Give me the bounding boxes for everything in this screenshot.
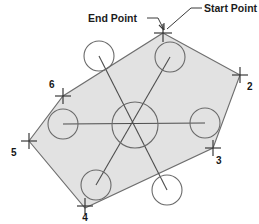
vertex-label-4: 4 (82, 212, 88, 223)
vertex-label-2: 2 (247, 81, 253, 92)
polygon-shape (29, 33, 240, 208)
vertex-label-6: 6 (49, 79, 55, 90)
vertex-label-5: 5 (11, 147, 17, 158)
leader-line-start-point (167, 8, 202, 29)
polygon-point-diagram: End Point Start Point 2 3 4 5 6 (0, 0, 259, 224)
start-point-label: Start Point (204, 2, 258, 14)
end-point-label: End Point (88, 12, 137, 24)
diagram-canvas: End Point Start Point 2 3 4 5 6 (0, 0, 259, 224)
leader-line-group (147, 8, 202, 30)
vertex-label-3: 3 (216, 155, 222, 166)
